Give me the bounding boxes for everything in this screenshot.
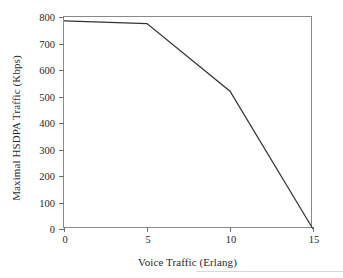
chart-figure: Maximal HSDPA Traffic (Kbps) 01002003004… xyxy=(0,0,343,278)
x-axis-tick: 10 xyxy=(230,227,231,232)
series-line-layer xyxy=(64,17,313,229)
x-axis-tick-label: 5 xyxy=(128,233,168,247)
scan-artifact-line xyxy=(196,271,343,272)
x-axis-tick-label: 15 xyxy=(294,233,334,247)
y-axis-tick: 300 xyxy=(59,150,64,151)
x-axis-title: Voice Traffic (Erlang) xyxy=(63,256,312,268)
plot-area: 0100200300400500600700800051015 xyxy=(63,16,312,228)
y-axis-tick-label: 100 xyxy=(39,196,55,212)
y-axis-tick-label: 300 xyxy=(39,143,55,159)
y-axis-tick: 700 xyxy=(59,44,64,45)
y-axis-tick: 600 xyxy=(59,70,64,71)
y-axis-tick: 400 xyxy=(59,123,64,124)
y-axis-tick: 100 xyxy=(59,203,64,204)
y-axis-tick: 200 xyxy=(59,176,64,177)
y-axis-tick: 800 xyxy=(59,17,64,18)
x-axis-tick-label: 10 xyxy=(211,233,251,247)
x-axis-tick: 5 xyxy=(147,227,148,232)
y-axis-tick-label: 700 xyxy=(39,37,55,53)
y-axis-tick-label: 500 xyxy=(39,90,55,106)
x-axis-tick: 0 xyxy=(64,227,65,232)
y-axis-tick-label: 200 xyxy=(39,169,55,185)
x-axis-tick: 15 xyxy=(313,227,314,232)
y-axis-tick-label: 400 xyxy=(39,116,55,132)
y-axis-tick-label: 600 xyxy=(39,63,55,79)
y-axis-title: Maximal HSDPA Traffic (Kbps) xyxy=(8,12,24,244)
x-axis-tick-label: 0 xyxy=(45,233,85,247)
y-axis-tick-label: 800 xyxy=(39,10,55,26)
series-line-maximal-hsdpa-traffic xyxy=(64,21,313,229)
y-axis-tick: 500 xyxy=(59,97,64,98)
